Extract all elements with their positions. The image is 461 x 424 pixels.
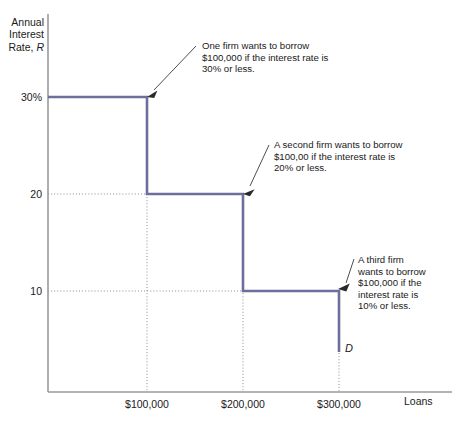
y-axis-title: AnnualInterestRate, R — [4, 16, 44, 53]
x-axis-title: Loans — [404, 395, 433, 407]
y-tick-label-20: 20 — [4, 188, 42, 200]
y-tick-label-30: 30% — [4, 91, 42, 103]
y-axis-title-line-1: Annual — [11, 16, 44, 28]
annotation-arrow-firm-three — [338, 259, 354, 291]
annotation-firm-one: One firm wants to borrow $100,000 if the… — [202, 40, 377, 75]
demand-curve-step-path — [48, 97, 339, 352]
y-tick-label-10: 10 — [4, 285, 42, 297]
y-axis-title-variable: R — [36, 41, 44, 53]
y-axis-title-line-3: Rate, — [8, 41, 36, 53]
annotation-arrow-firm-one — [147, 46, 196, 98]
annotation-firm-two: A second firm wants to borrow $100,00 if… — [274, 139, 454, 174]
x-tick-label-200000: $200,000 — [198, 398, 288, 410]
y-axis-title-line-2: Interest — [9, 28, 44, 40]
annotation-arrow-firm-two — [243, 145, 269, 196]
x-tick-label-100000: $100,000 — [102, 398, 192, 410]
annotation-firm-three: A third firm wants to borrow $100,000 if… — [358, 254, 461, 312]
x-tick-label-300000: $300,000 — [294, 398, 384, 410]
demand-curve-figure: AnnualInterestRate, R 30% 20 10 $100,000… — [0, 0, 461, 424]
demand-curve-label: D — [345, 342, 353, 354]
